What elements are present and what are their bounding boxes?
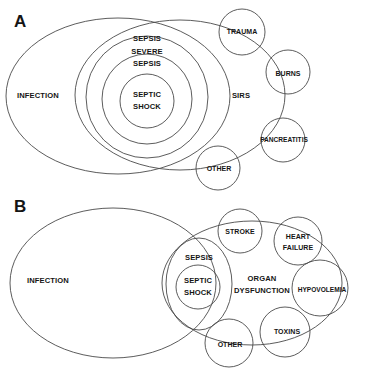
panel-b-septic-shock-label-line2: SHOCK <box>184 288 212 297</box>
panel-a-septic-shock-label-line1: SEPTIC <box>133 90 161 99</box>
panel-b: B INFECTION SEPSIS SEPTIC SHOCK ORGAN DY… <box>10 197 348 367</box>
panel-a-severe-sepsis-label-line1: SEVERE <box>131 47 162 56</box>
panel-b-stroke-label: STROKE <box>225 228 255 235</box>
panel-a-sirs-label: SIRS <box>232 91 250 100</box>
panel-b-letter: B <box>14 197 26 216</box>
panel-a-septic-shock-circle <box>120 74 174 128</box>
venn-diagram-figure: A INFECTION SIRS SEPSIS SEVERE SEPSIS SE… <box>0 0 365 375</box>
panel-b-other-label: OTHER <box>218 341 243 348</box>
panel-b-heart-failure-label-line1: HEART <box>286 233 311 240</box>
venn-diagram-canvas: A INFECTION SIRS SEPSIS SEVERE SEPSIS SE… <box>0 0 365 375</box>
panel-b-organ-dysfunction-label-line2: DYSFUNCTION <box>234 286 290 295</box>
panel-a-infection-label: INFECTION <box>17 91 59 100</box>
panel-a-other-label: OTHER <box>207 165 232 172</box>
panel-b-septic-shock-circle <box>176 265 220 309</box>
panel-b-hypovolemia-label: HYPOVOLEMIA <box>298 286 347 293</box>
panel-a-severe-sepsis-label-line2: SEPSIS <box>133 59 161 68</box>
panel-a-septic-shock-label-line2: SHOCK <box>133 102 161 111</box>
panel-b-septic-shock-label-line1: SEPTIC <box>184 276 212 285</box>
panel-a: A INFECTION SIRS SEPSIS SEVERE SEPSIS SE… <box>6 9 310 190</box>
panel-b-sepsis-label: SEPSIS <box>185 253 213 262</box>
panel-a-sirs-ellipse <box>75 20 285 170</box>
panel-b-toxins-label: TOXINS <box>274 328 301 335</box>
panel-a-sepsis-label: SEPSIS <box>133 34 161 43</box>
panel-b-heart-failure-circle <box>274 217 322 265</box>
panel-b-organ-dysfunction-label-line1: ORGAN <box>248 274 277 283</box>
panel-a-trauma-label: TRAUMA <box>227 28 258 35</box>
panel-a-letter: A <box>14 12 26 31</box>
panel-a-pancreatitis-label: PANCREATITIS <box>260 136 308 143</box>
panel-b-heart-failure-label-line2: FAILURE <box>283 244 314 251</box>
panel-a-burns-label: BURNS <box>275 70 300 77</box>
panel-b-infection-label: INFECTION <box>27 276 69 285</box>
